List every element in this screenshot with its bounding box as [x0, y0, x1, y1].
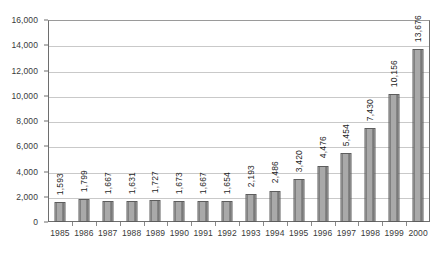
bar-slot: 4,476: [311, 20, 335, 222]
bar-value-label: 1,631: [127, 172, 137, 198]
y-tick-label-14000: 14,000: [11, 40, 38, 50]
bar-slot: 13,676: [406, 20, 430, 222]
bar-value-text: 2,193: [246, 165, 256, 187]
bar-value-label: 3,420: [294, 150, 304, 176]
y-tick-label-10000: 10,000: [11, 91, 38, 101]
bar-value-label: 5,454: [341, 124, 351, 150]
bar-value-label: 1,667: [198, 172, 208, 198]
bar-value-label: 13,676: [413, 15, 423, 46]
bar-value-label: 10,156: [389, 60, 399, 91]
x-tick-label-1988: 1988: [122, 228, 141, 238]
bar-value-label: 2,486: [270, 161, 280, 187]
x-tick-label-1998: 1998: [361, 228, 380, 238]
bar-slot: 2,486: [263, 20, 287, 222]
bar[interactable]: [341, 153, 352, 222]
bar-slot: 1,593: [48, 20, 72, 222]
y-tick-label-6000: 6,000: [16, 141, 38, 151]
bar-slot: 3,420: [287, 20, 311, 222]
bar-value-text: 13,676: [413, 15, 423, 42]
bar-slot: 1,673: [167, 20, 191, 222]
bar-slot: 1,667: [96, 20, 120, 222]
y-tick-label-8000: 8,000: [16, 116, 38, 126]
bar-slot: 1,667: [191, 20, 215, 222]
bar-value-text: 1,667: [103, 172, 113, 194]
x-tick-label-1985: 1985: [50, 228, 69, 238]
x-tick-mark: [215, 222, 216, 226]
bar[interactable]: [269, 191, 280, 222]
bar-value-label: 1,727: [150, 171, 160, 197]
bar-value-text: 10,156: [389, 60, 399, 87]
x-tick-mark: [287, 222, 288, 226]
x-tick-mark: [144, 222, 145, 226]
x-tick-label-1995: 1995: [289, 228, 308, 238]
y-tick-label-12000: 12,000: [11, 66, 38, 76]
bars-layer: 1,5931,7991,6671,6311,7271,6731,6671,654…: [48, 20, 430, 222]
x-tick-mark: [382, 222, 383, 226]
bar-value-text: 1,667: [198, 172, 208, 194]
bar[interactable]: [198, 201, 209, 222]
x-tick-label-1987: 1987: [98, 228, 117, 238]
x-tick-mark: [167, 222, 168, 226]
x-tick-mark: [191, 222, 192, 226]
bar[interactable]: [54, 202, 65, 222]
x-tick-mark: [311, 222, 312, 226]
bar-value-text: 5,454: [341, 124, 351, 146]
x-tick-label-1990: 1990: [170, 228, 189, 238]
bar-slot: 5,454: [335, 20, 359, 222]
x-tick-label-1996: 1996: [313, 228, 332, 238]
bar-value-label: 1,799: [79, 170, 89, 196]
x-tick-label-1992: 1992: [217, 228, 236, 238]
bar[interactable]: [126, 201, 137, 222]
bar-slot: 1,654: [215, 20, 239, 222]
bar-value-label: 2,193: [246, 165, 256, 191]
x-tick-mark: [72, 222, 73, 226]
bar-value-text: 4,476: [318, 136, 328, 158]
bar[interactable]: [150, 200, 161, 222]
x-tick-mark: [358, 222, 359, 226]
bar-value-label: 1,593: [55, 173, 65, 199]
bar[interactable]: [222, 201, 233, 222]
x-tick-label-2000: 2000: [408, 228, 427, 238]
x-tick-mark: [96, 222, 97, 226]
bar[interactable]: [245, 194, 256, 222]
bar-value-label: 7,430: [365, 99, 375, 125]
bar[interactable]: [365, 128, 376, 222]
x-tick-label-1999: 1999: [385, 228, 404, 238]
bar[interactable]: [78, 199, 89, 222]
bar-value-text: 1,727: [150, 171, 160, 193]
x-tick-mark: [406, 222, 407, 226]
x-tick-mark: [120, 222, 121, 226]
x-tick-mark: [263, 222, 264, 226]
bar-value-text: 1,654: [222, 172, 232, 194]
bar-slot: 7,430: [358, 20, 382, 222]
bar-chart: 02,0004,0006,0008,00010,00012,00014,0001…: [0, 0, 447, 254]
bar-slot: 10,156: [382, 20, 406, 222]
bar-slot: 1,799: [72, 20, 96, 222]
bar-value-label: 1,673: [174, 172, 184, 198]
bar[interactable]: [174, 201, 185, 222]
bar-slot: 1,727: [144, 20, 168, 222]
bar[interactable]: [102, 201, 113, 222]
y-tick-label-4000: 4,000: [16, 167, 38, 177]
y-axis: 02,0004,0006,0008,00010,00012,00014,0001…: [0, 20, 44, 222]
bar-value-text: 1,799: [79, 170, 89, 192]
bar-value-text: 1,631: [127, 172, 137, 194]
bar-slot: 1,631: [120, 20, 144, 222]
y-tick-label-16000: 16,000: [11, 15, 38, 25]
x-tick-label-1993: 1993: [241, 228, 260, 238]
bar-slot: 2,193: [239, 20, 263, 222]
bar[interactable]: [389, 94, 400, 222]
bar[interactable]: [293, 179, 304, 222]
x-tick-label-1991: 1991: [194, 228, 213, 238]
bar-value-text: 1,593: [55, 173, 65, 195]
x-tick-label-1986: 1986: [74, 228, 93, 238]
x-tick-label-1997: 1997: [337, 228, 356, 238]
x-tick-label-1994: 1994: [265, 228, 284, 238]
bar-value-text: 1,673: [174, 172, 184, 194]
bar[interactable]: [413, 49, 424, 222]
bar[interactable]: [317, 166, 328, 223]
x-tick-mark: [239, 222, 240, 226]
x-tick-mark: [335, 222, 336, 226]
bar-value-text: 7,430: [365, 99, 375, 121]
bar-value-text: 2,486: [270, 161, 280, 183]
